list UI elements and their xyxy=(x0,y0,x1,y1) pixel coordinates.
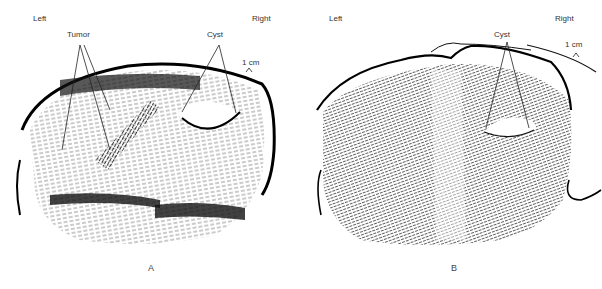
ultrasound-drawing-a xyxy=(0,0,301,289)
left-label: Left xyxy=(329,14,342,23)
right-label: Right xyxy=(555,14,574,23)
cyst-label: Cyst xyxy=(207,30,223,39)
panel-b: Left Right Cyst 1 cm B xyxy=(301,0,602,289)
ultrasound-drawing-b xyxy=(301,0,602,289)
left-label: Left xyxy=(33,14,46,23)
panel-caption-b: B xyxy=(451,263,457,273)
scale-label: 1 cm xyxy=(242,58,259,67)
cyst-label: Cyst xyxy=(494,30,510,39)
tumor-label: Tumor xyxy=(67,30,90,39)
panel-caption-a: A xyxy=(148,263,154,273)
right-label: Right xyxy=(252,14,271,23)
scale-label: 1 cm xyxy=(565,40,582,49)
panel-a: Left Right Tumor Cyst 1 cm A xyxy=(0,0,301,289)
